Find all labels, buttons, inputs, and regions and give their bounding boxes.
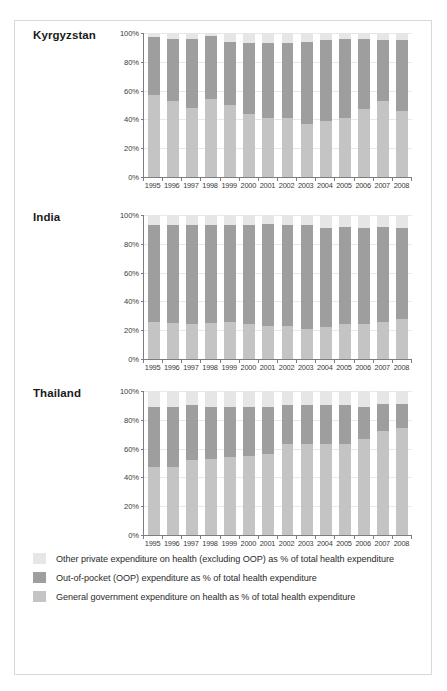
x-tick-label: 2007 (373, 539, 392, 548)
x-tick-label: 1998 (200, 539, 219, 548)
bar-segment-oop (282, 405, 294, 444)
plot-india (143, 215, 412, 360)
x-tick-label: 2004 (315, 539, 334, 548)
x-tick-label: 2007 (373, 363, 392, 372)
legend-label-other-private: Other private expenditure on health (exc… (56, 554, 394, 564)
bar-segment-oop (339, 227, 351, 325)
stacked-bar-2008 (396, 33, 408, 177)
stacked-bar-1995 (148, 391, 160, 535)
bar-segment-oop (358, 228, 370, 324)
stacked-bar-1998 (205, 391, 217, 535)
bar-cell (393, 33, 412, 177)
y-tick-label: 100% (120, 387, 139, 396)
bar-segment-other (224, 391, 236, 407)
bar-segment-other (205, 391, 217, 407)
bar-segment-gov (320, 444, 332, 535)
bar-segment-other (224, 33, 236, 42)
x-tick-label: 2002 (277, 181, 296, 190)
bar-segment-oop (377, 404, 389, 431)
bar-segment-oop (148, 37, 160, 95)
bar-segment-oop (186, 225, 198, 324)
x-tick-label: 2000 (239, 181, 258, 190)
bar-cell (297, 215, 316, 359)
bar-segment-oop (243, 43, 255, 114)
x-tick-label: 2004 (315, 363, 334, 372)
bar-segment-oop (167, 225, 179, 323)
bar-segment-gov (167, 467, 179, 535)
x-tick-label: 1998 (200, 181, 219, 190)
y-tick-label: 80% (124, 415, 139, 424)
bar-segment-gov (262, 118, 274, 177)
stacked-bar-2008 (396, 215, 408, 359)
bar-segment-oop (396, 40, 408, 111)
y-tick-label: 20% (124, 502, 139, 511)
bar-cell (201, 215, 220, 359)
bar-segment-other (243, 215, 255, 225)
legend-swatch-oop-icon (33, 572, 46, 583)
bar-segment-oop (224, 407, 236, 457)
stacked-bar-1999 (224, 391, 236, 535)
x-tick-label: 2003 (296, 363, 315, 372)
stacked-bar-2003 (301, 215, 313, 359)
bar-segment-other (301, 391, 313, 405)
y-tick-label: 20% (124, 326, 139, 335)
bar-cell (316, 215, 335, 359)
bar-cell (240, 215, 259, 359)
bar-cell (355, 33, 374, 177)
stacked-bar-2001 (262, 33, 274, 177)
bar-group-india (144, 215, 412, 359)
x-tick-label: 1995 (143, 363, 162, 372)
bar-segment-other (243, 33, 255, 43)
stacked-bar-1995 (148, 215, 160, 359)
x-tick-label: 2000 (239, 363, 258, 372)
x-tick-label: 1995 (143, 181, 162, 190)
stacked-bar-1998 (205, 215, 217, 359)
legend-label-government: General government expenditure on health… (56, 592, 355, 602)
bar-segment-oop (282, 225, 294, 326)
bar-cell (240, 391, 259, 535)
stacked-bar-1997 (186, 391, 198, 535)
bar-segment-gov (148, 467, 160, 535)
bar-cell (393, 391, 412, 535)
x-tick-label: 2006 (354, 181, 373, 190)
bar-segment-gov (243, 114, 255, 177)
bar-cell (240, 33, 259, 177)
bar-cell (144, 391, 163, 535)
bar-cell (221, 391, 240, 535)
bar-segment-gov (396, 111, 408, 177)
bar-segment-oop (301, 405, 313, 444)
y-tick-label: 60% (124, 86, 139, 95)
bar-segment-oop (358, 39, 370, 110)
bar-cell (221, 215, 240, 359)
bar-cell (297, 33, 316, 177)
x-tick-label: 1999 (220, 363, 239, 372)
x-tick-label: 2004 (315, 181, 334, 190)
bar-segment-oop (301, 225, 313, 329)
stacked-bar-2003 (301, 391, 313, 535)
y-tick-label: 20% (124, 144, 139, 153)
plot-area-india: 0%20%40%60%80%100%1995199619971998199920… (113, 215, 413, 375)
stacked-bar-2004 (320, 391, 332, 535)
x-tick-label: 2001 (258, 181, 277, 190)
x-tick-label: 1997 (181, 181, 200, 190)
y-tick-label: 0% (128, 531, 139, 540)
y-tick-label: 60% (124, 444, 139, 453)
bar-segment-other (301, 215, 313, 225)
bar-cell (221, 33, 240, 177)
plot-thailand (143, 391, 412, 536)
bar-cell (374, 215, 393, 359)
y-tick-label: 100% (120, 29, 139, 38)
bar-segment-gov (262, 454, 274, 535)
bar-cell (182, 215, 201, 359)
x-tick-label: 1997 (181, 363, 200, 372)
stacked-bar-2008 (396, 391, 408, 535)
bar-cell (335, 391, 354, 535)
stacked-bar-2005 (339, 391, 351, 535)
bar-segment-gov (282, 118, 294, 177)
bar-segment-other (377, 391, 389, 404)
bar-segment-oop (224, 42, 236, 105)
bar-segment-oop (262, 43, 274, 118)
bar-segment-other (148, 215, 160, 225)
x-tick-label: 2008 (392, 539, 411, 548)
y-tick-label: 80% (124, 239, 139, 248)
